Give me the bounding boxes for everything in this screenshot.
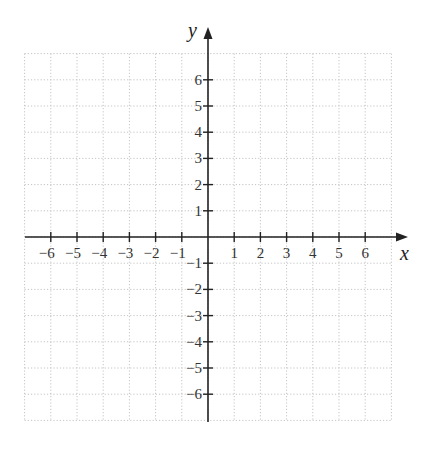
x-tick-label: −1 [170,245,186,261]
x-tick-label: 2 [257,245,265,261]
x-tick-label: −2 [144,245,160,261]
y-axis-arrow-icon [204,27,213,39]
x-tick-label: −4 [91,245,107,261]
x-tick-label: −6 [39,245,55,261]
y-tick-label: −1 [186,255,202,271]
y-tick-label: −3 [186,308,202,324]
y-tick-label: −6 [186,386,202,402]
y-tick-label: 1 [195,203,203,219]
y-tick-label: 4 [195,124,203,140]
x-tick-label: 6 [361,245,369,261]
y-tick-label: 2 [195,177,203,193]
y-tick-label: −2 [186,281,202,297]
y-tick-label: −5 [186,360,202,376]
x-tick-label: 4 [309,245,317,261]
x-axis-label: x [399,242,409,264]
x-axis-arrow-icon [396,233,408,242]
y-axis-label: y [186,19,197,42]
y-tick-label: 6 [195,72,203,88]
x-tick-label: 3 [283,245,291,261]
x-tick-label: −3 [117,245,133,261]
y-tick-label: 5 [195,98,203,114]
x-tick-label: 1 [230,245,238,261]
y-tick-label: −4 [186,334,202,350]
coordinate-plane: −6−5−4−3−2−1123456 −6−5−4−3−2−1123456 x … [0,0,439,450]
x-tick-label: 5 [335,245,343,261]
axes [25,27,408,422]
x-tick-label: −5 [65,245,81,261]
y-tick-label: 3 [195,150,203,166]
